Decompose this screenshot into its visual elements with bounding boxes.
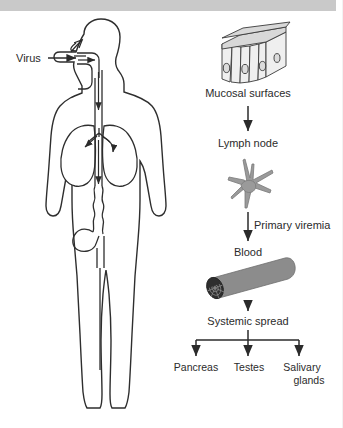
lymph-node-icon <box>228 159 273 208</box>
systemic-spread-branch <box>196 330 299 356</box>
salivary-glands-label-line1: Salivary <box>283 361 321 373</box>
pancreas-label: Pancreas <box>174 361 218 373</box>
figure-container: Virus <box>0 0 343 428</box>
systemic-spread-label: Systemic spread <box>207 315 288 327</box>
primary-viremia-label: Primary viremia <box>254 219 331 231</box>
blood-vessel-icon <box>204 258 296 301</box>
flow-chart: Mucosal surfaces Lymph node Primary vire… <box>174 22 331 386</box>
diagram-canvas: Virus <box>0 0 343 428</box>
epithelium-block-icon <box>222 22 290 83</box>
virus-label: Virus <box>16 52 41 64</box>
lymph-node-label: Lymph node <box>218 137 278 149</box>
mucosal-surfaces-label: Mucosal surfaces <box>205 87 291 99</box>
blood-label: Blood <box>234 246 262 258</box>
salivary-glands-label-line2: glands <box>294 374 325 386</box>
body-silhouette <box>46 19 166 408</box>
testes-label: Testes <box>234 361 264 373</box>
human-body-figure: Virus <box>16 19 166 408</box>
top-banner <box>0 0 336 11</box>
